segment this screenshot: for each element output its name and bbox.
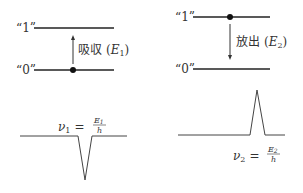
electron-dot bbox=[70, 67, 76, 73]
electron-dot bbox=[227, 14, 233, 20]
nu1-formula: ν1= bbox=[58, 120, 84, 135]
absorb-label: 吸収(E1) bbox=[78, 43, 129, 58]
absorption-panel: “1” “0” 吸収(E1) ν1= E1 h bbox=[16, 21, 129, 180]
level-0-label: “0” bbox=[175, 62, 195, 76]
level-0-label: “0” bbox=[16, 63, 36, 77]
arrow-head-icon bbox=[228, 55, 232, 60]
nu2-formula: ν2= bbox=[233, 149, 259, 164]
nu1-denominator: h bbox=[97, 126, 102, 135]
emit-label: 放出(E2) bbox=[236, 34, 287, 50]
level-1-label: “1” bbox=[175, 10, 195, 24]
emission-spectrum bbox=[178, 90, 285, 135]
nu2-numerator: E2 bbox=[267, 145, 278, 154]
arrow-head-icon bbox=[71, 35, 75, 40]
emission-panel: “1” “0” 放出(E2) ν2= E2 h bbox=[175, 10, 287, 164]
nu2-denominator: h bbox=[271, 155, 276, 164]
nu1-numerator: E1 bbox=[93, 116, 104, 125]
level-1-label: “1” bbox=[16, 21, 36, 35]
absorption-spectrum bbox=[20, 136, 127, 180]
energy-level-diagram: “1” “0” 吸収(E1) ν1= E1 h “1” “0” 放出(E2) ν… bbox=[0, 0, 303, 193]
